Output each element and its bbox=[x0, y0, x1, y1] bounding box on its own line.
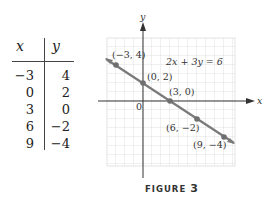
caption-number: 3 bbox=[190, 182, 199, 195]
point-label: (6, −2) bbox=[166, 122, 200, 133]
line-graph: y x 0 2x + 3y = 6 (−3, 4) (0, 2) (3, 0) … bbox=[0, 0, 269, 201]
point-label: (−3, 4) bbox=[112, 49, 146, 60]
figure-caption: FIGURE 3 bbox=[145, 182, 199, 195]
y-axis-label: y bbox=[139, 11, 146, 22]
data-point bbox=[167, 98, 173, 104]
data-point bbox=[194, 116, 200, 122]
caption-word: FIGURE bbox=[145, 184, 186, 194]
data-point bbox=[113, 62, 119, 68]
point-label: (3, 0) bbox=[169, 86, 195, 97]
x-axis-arrow-icon bbox=[246, 98, 255, 104]
x-axis-label: x bbox=[257, 95, 263, 106]
equation-label: 2x + 3y = 6 bbox=[165, 56, 223, 67]
point-label: (0, 2) bbox=[147, 71, 173, 82]
point-label: (9, −4) bbox=[193, 139, 227, 150]
data-point bbox=[140, 80, 146, 86]
y-axis-arrow-icon bbox=[140, 22, 146, 31]
origin-label: 0 bbox=[136, 101, 142, 112]
